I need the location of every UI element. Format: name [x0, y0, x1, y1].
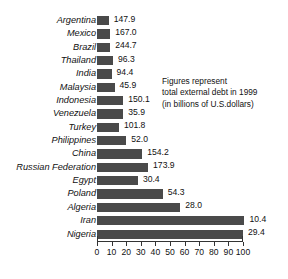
bar-value-label: 45.9 — [120, 80, 137, 90]
x-axis-tick — [185, 242, 186, 246]
x-axis-tick-label: 100 — [236, 247, 250, 257]
category-label: Philippines — [52, 134, 96, 147]
bar-row: Nigeria29.4 — [0, 228, 288, 241]
bar-track — [97, 176, 243, 185]
bar-row: Brazil244.7 — [0, 41, 288, 54]
annotation-line-3: (in billions of U.S.dollars) — [162, 99, 257, 110]
x-axis-tick-label: 60 — [180, 247, 190, 257]
bar-row: Philippines52.0 — [0, 134, 288, 147]
bar-value-label: 244.7 — [115, 40, 137, 50]
bar-value-label: 101.8 — [124, 120, 146, 130]
x-axis-tick — [155, 242, 156, 246]
x-axis-tick-label: 10 — [107, 247, 117, 257]
annotation-line-1: Figures represent — [162, 76, 257, 87]
x-axis-tick-label: 70 — [194, 247, 204, 257]
bar-row: Russian Federation173.9 — [0, 161, 288, 174]
x-axis-tick — [243, 242, 244, 246]
bar — [97, 29, 110, 38]
bar — [97, 163, 148, 172]
bar-value-label: 28.0 — [185, 200, 202, 210]
x-axis-tick — [126, 242, 127, 246]
category-label: Thailand — [61, 54, 96, 67]
bar-track — [97, 136, 243, 145]
x-axis-tick — [97, 242, 98, 246]
bar-row: Egypt30.4 — [0, 174, 288, 187]
x-axis-tick — [112, 242, 113, 246]
bar-row: Poland54.3 — [0, 187, 288, 200]
category-label: Indonesia — [56, 94, 96, 107]
category-label: Malaysia — [60, 81, 96, 94]
bar-row: Algeria28.0 — [0, 201, 288, 214]
bar-track — [97, 230, 243, 239]
bar-row: Turkey101.8 — [0, 121, 288, 134]
x-axis-tick — [214, 242, 215, 246]
x-axis-tick-label: 80 — [209, 247, 219, 257]
category-label: Poland — [67, 187, 96, 200]
bar-row: Mexico167.0 — [0, 27, 288, 40]
bar-value-label: 94.4 — [117, 67, 134, 77]
category-label: India — [76, 67, 96, 80]
category-label: Algeria — [67, 201, 96, 214]
bar — [97, 123, 119, 132]
x-axis-tick-label: 40 — [151, 247, 161, 257]
bar-track — [97, 216, 243, 225]
bar-track — [97, 203, 243, 212]
bar-value-label: 147.9 — [114, 14, 136, 24]
x-axis-tick-label: 30 — [136, 247, 146, 257]
bar — [97, 83, 115, 92]
category-label: Venezuela — [53, 107, 96, 120]
bar — [97, 69, 112, 78]
x-axis-tick-label: 20 — [121, 247, 131, 257]
bar-value-label: 96.3 — [118, 54, 135, 64]
x-axis-tick — [141, 242, 142, 246]
bar — [97, 230, 243, 239]
category-label: China — [72, 147, 96, 160]
bar — [97, 56, 113, 65]
bar-row: Iran10.4 — [0, 214, 288, 227]
bar-value-label: 150.1 — [128, 94, 150, 104]
bar-value-label: 30.4 — [143, 174, 160, 184]
category-label: Turkey — [69, 121, 96, 134]
x-axis-tick-label: 0 — [95, 247, 100, 257]
bar-row: Argentina147.9 — [0, 14, 288, 27]
x-axis-tick — [170, 242, 171, 246]
annotation-line-2: total external debt in 1999 — [162, 87, 257, 98]
bar — [97, 16, 109, 25]
bar-value-label: 29.4 — [248, 227, 265, 237]
category-label: Egypt — [73, 174, 97, 187]
bar-row: China154.2 — [0, 147, 288, 160]
category-label: Argentina — [57, 14, 96, 27]
bar — [97, 149, 142, 158]
category-label: Brazil — [73, 41, 96, 54]
bar — [97, 203, 180, 212]
x-axis-tick-label: 90 — [224, 247, 234, 257]
bar-rows: Argentina147.9Mexico167.0Brazil244.7Thai… — [0, 14, 288, 241]
bar — [97, 96, 123, 105]
category-label: Russian Federation — [16, 161, 96, 174]
bar — [97, 216, 244, 225]
bar — [97, 43, 110, 52]
x-axis-tick-label: 50 — [165, 247, 175, 257]
bar-row: Thailand96.3 — [0, 54, 288, 67]
category-label: Nigeria — [67, 228, 96, 241]
bar-value-label: 54.3 — [168, 187, 185, 197]
bar — [97, 109, 123, 118]
bar-track — [97, 149, 243, 158]
bar-value-label: 35.9 — [128, 107, 145, 117]
bar-track — [97, 109, 243, 118]
bar — [97, 176, 138, 185]
bar-chart: Argentina147.9Mexico167.0Brazil244.7Thai… — [0, 0, 288, 279]
bar-value-label: 10.4 — [249, 214, 266, 224]
category-label: Mexico — [67, 27, 96, 40]
bar — [97, 189, 163, 198]
x-axis-tick — [228, 242, 229, 246]
category-label: Iran — [80, 214, 96, 227]
x-axis-tick — [199, 242, 200, 246]
bar — [97, 136, 126, 145]
bar-value-label: 52.0 — [131, 134, 148, 144]
chart-annotation: Figures represent total external debt in… — [162, 76, 257, 110]
bar-value-label: 167.0 — [115, 27, 137, 37]
bar-track — [97, 123, 243, 132]
bar-value-label: 173.9 — [153, 160, 175, 170]
bar-value-label: 154.2 — [147, 147, 169, 157]
